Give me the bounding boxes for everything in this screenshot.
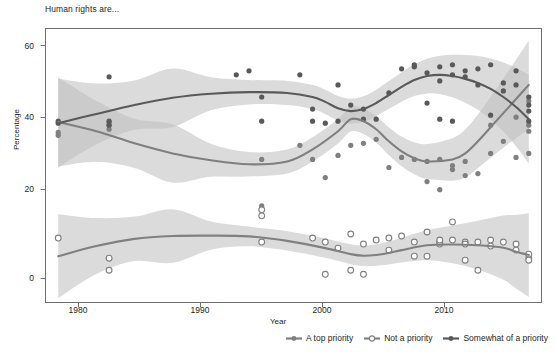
- data-point: [335, 153, 340, 158]
- data-point: [399, 155, 404, 160]
- data-point: [297, 143, 302, 148]
- confidence-band: [58, 209, 529, 298]
- legend-item-not-a-priority[interactable]: Not a priority: [364, 334, 432, 343]
- data-point: [411, 239, 417, 245]
- data-point: [412, 64, 417, 69]
- data-point: [373, 237, 379, 243]
- data-point: [424, 100, 429, 105]
- legend-label-a-top-priority: A top priority: [306, 334, 353, 343]
- data-point: [424, 253, 430, 259]
- legend-marker-filled-circle-dark-gray: [443, 334, 459, 343]
- data-point: [501, 80, 506, 85]
- data-point: [513, 68, 518, 73]
- data-point: [463, 68, 468, 73]
- data-point: [424, 229, 430, 235]
- legend-label-somewhat-of-a-priority: Somewhat of a priority: [463, 334, 548, 343]
- data-point: [56, 130, 61, 135]
- data-point: [437, 78, 442, 83]
- data-point: [348, 143, 353, 148]
- data-point: [335, 119, 340, 124]
- data-point: [513, 155, 518, 160]
- data-point: [399, 66, 404, 71]
- data-point: [526, 257, 532, 263]
- chart-legend: A top priority Not a priority Somewhat o…: [0, 334, 548, 343]
- data-point: [386, 165, 391, 170]
- data-point: [348, 267, 354, 273]
- legend-label-not-a-priority: Not a priority: [384, 334, 432, 343]
- data-point: [411, 253, 417, 259]
- data-point: [259, 119, 264, 124]
- data-point: [106, 267, 112, 273]
- data-point: [437, 117, 442, 122]
- data-point: [526, 129, 531, 134]
- data-point: [450, 237, 456, 243]
- data-point: [500, 239, 506, 245]
- data-point: [424, 70, 429, 75]
- legend-marker-filled-circle-medium-gray: [286, 334, 302, 343]
- data-point: [259, 207, 265, 213]
- data-point: [462, 257, 468, 263]
- data-point: [234, 72, 239, 77]
- legend-item-a-top-priority[interactable]: A top priority: [286, 334, 353, 343]
- data-point: [348, 231, 354, 237]
- data-point: [55, 235, 61, 241]
- data-point: [310, 106, 315, 111]
- data-point: [310, 235, 316, 241]
- plot-area: [0, 0, 556, 354]
- data-point: [526, 102, 531, 107]
- data-point: [437, 187, 442, 192]
- data-point: [488, 113, 493, 118]
- data-point: [106, 255, 112, 261]
- data-point: [106, 123, 111, 128]
- data-point: [424, 179, 429, 184]
- data-point: [475, 267, 481, 273]
- data-point: [488, 62, 493, 67]
- data-point: [323, 121, 328, 126]
- data-point: [513, 82, 518, 87]
- data-point: [450, 163, 455, 168]
- data-point: [526, 94, 531, 99]
- data-point: [513, 115, 518, 120]
- chart-container: Human rights are... Percentage Year 60 4…: [0, 0, 556, 354]
- data-point: [361, 271, 367, 277]
- data-point: [488, 151, 493, 156]
- data-point: [450, 219, 456, 225]
- confidence-bands-layer: [58, 40, 529, 298]
- data-point: [259, 213, 265, 219]
- data-point: [322, 239, 328, 245]
- data-point: [386, 235, 392, 241]
- legend-marker-open-circle: [364, 334, 380, 343]
- data-point: [259, 157, 264, 162]
- data-point: [437, 64, 442, 69]
- data-point: [335, 82, 340, 87]
- data-point: [526, 151, 531, 156]
- data-point: [475, 66, 480, 71]
- data-point: [310, 157, 315, 162]
- data-point: [437, 237, 443, 243]
- data-point: [348, 102, 353, 107]
- data-point: [361, 241, 367, 247]
- data-point: [106, 74, 111, 79]
- data-point: [526, 109, 531, 114]
- data-point: [374, 137, 379, 142]
- data-point: [501, 139, 506, 144]
- data-point: [463, 159, 468, 164]
- legend-item-somewhat-of-a-priority[interactable]: Somewhat of a priority: [443, 334, 548, 343]
- data-point: [399, 233, 405, 239]
- data-point: [488, 237, 494, 243]
- data-point: [246, 68, 251, 73]
- data-point: [513, 241, 519, 247]
- data-point: [475, 171, 480, 176]
- data-point: [374, 117, 379, 122]
- data-point: [322, 271, 328, 277]
- data-point: [450, 62, 455, 67]
- data-point: [323, 175, 328, 180]
- data-point: [310, 119, 315, 124]
- data-point: [297, 72, 302, 77]
- data-point: [475, 239, 481, 245]
- data-point: [501, 88, 506, 93]
- data-point: [259, 239, 265, 245]
- data-point: [450, 119, 455, 124]
- data-point: [259, 94, 264, 99]
- data-point: [463, 173, 468, 178]
